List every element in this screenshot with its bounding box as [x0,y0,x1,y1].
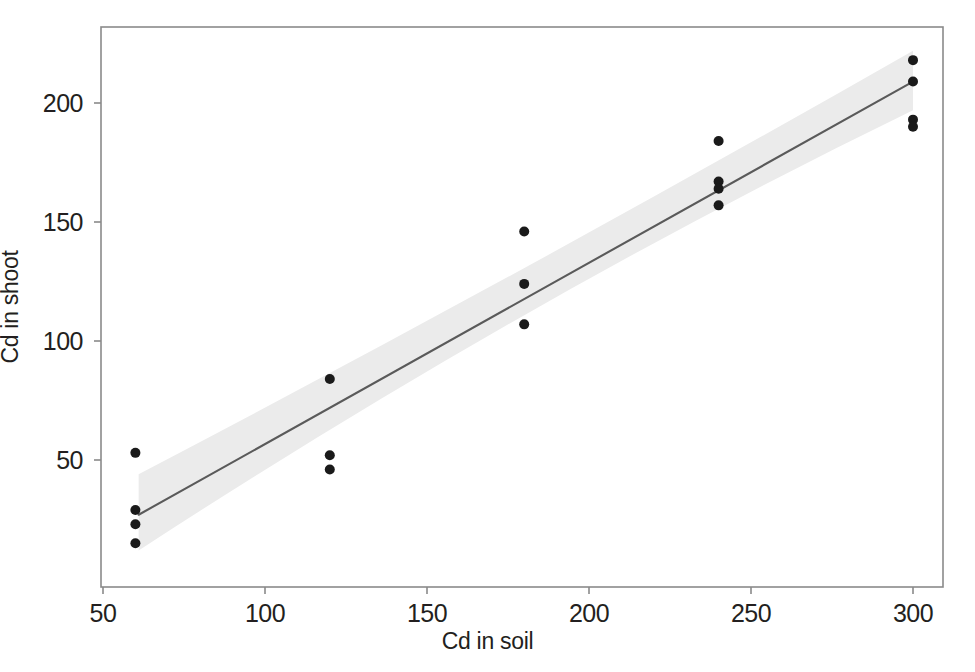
scatter-plot-figure: 50100150200250300 50100150200 Cd in soil… [0,0,975,672]
data-point [325,465,335,475]
axis-tick-marks [94,103,913,594]
data-point [519,319,529,329]
y-tick-label-150: 150 [43,208,83,237]
data-point [908,77,918,87]
data-point [130,505,140,515]
x-tick-label-200: 200 [569,599,609,628]
x-axis-label: Cd in soil [0,628,975,655]
x-tick-label-100: 100 [245,599,285,628]
data-point [519,227,529,237]
data-point [908,55,918,65]
data-point [908,122,918,132]
data-point [325,450,335,460]
data-point [130,538,140,548]
data-point [325,374,335,384]
data-point [130,448,140,458]
y-tick-label-50: 50 [56,446,83,475]
data-point [714,136,724,146]
y-tick-label-200: 200 [43,89,83,118]
x-tick-label-50: 50 [90,599,117,628]
confidence-band [139,51,913,551]
data-point [130,519,140,529]
plot-canvas [0,0,975,672]
y-tick-label-100: 100 [43,327,83,356]
x-tick-label-300: 300 [893,599,933,628]
data-point [519,279,529,289]
data-point [714,200,724,210]
data-point [714,184,724,194]
regression-line [139,82,913,515]
x-tick-label-250: 250 [731,599,771,628]
x-tick-label-150: 150 [407,599,447,628]
y-axis-label: Cd in shoot [0,250,24,363]
